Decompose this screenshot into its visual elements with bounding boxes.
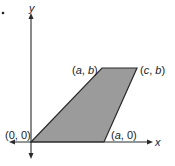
vertex-label-a-0: (a, 0)	[111, 129, 137, 141]
y-axis-label: y	[28, 2, 36, 14]
x-axis-right-arrow-icon	[147, 140, 153, 145]
y-axis-down-arrow-icon	[29, 153, 34, 159]
vertex-label-origin: (0, 0)	[5, 129, 31, 141]
coordinate-diagram: x y (0, 0) (a, b) (c, b) (a, 0)	[0, 0, 175, 166]
bullet-marker	[2, 12, 5, 15]
x-axis-label: x	[154, 136, 161, 148]
vertex-label-a-b: (a, b)	[72, 64, 98, 76]
vertex-label-c-b: (c, b)	[140, 64, 165, 76]
